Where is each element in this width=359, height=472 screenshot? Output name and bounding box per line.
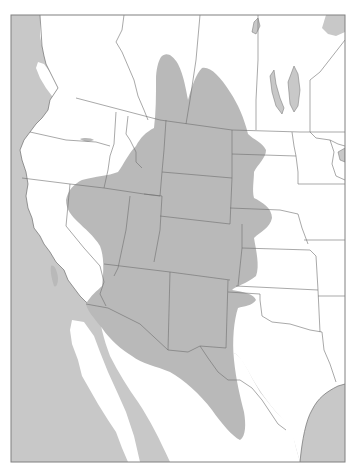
map-canvas xyxy=(0,0,359,472)
range-map xyxy=(0,0,359,472)
